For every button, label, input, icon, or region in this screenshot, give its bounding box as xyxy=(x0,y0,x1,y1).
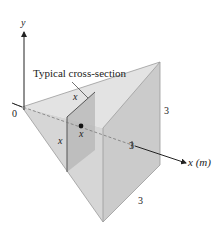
x-tick-3-label: 3 xyxy=(129,141,134,151)
x-axis-left-stub xyxy=(12,103,22,107)
right-face-height-label: 3 xyxy=(164,106,169,116)
origin-label: 0 xyxy=(12,109,17,119)
cross-section-top-edge-label: x xyxy=(73,92,77,102)
cross-section-label: Typical cross-section xyxy=(33,68,126,79)
cross-section-side-edge-label: x xyxy=(58,136,62,146)
diagram-graphics xyxy=(0,0,221,238)
cross-section-position-label: x xyxy=(79,129,83,139)
x-axis-label: x (m) xyxy=(188,157,211,168)
y-axis-label: y xyxy=(21,18,25,28)
bottom-edge-length-label: 3 xyxy=(138,196,143,206)
solid-diagram: y 0 Typical cross-section x x x 3 3 3 x … xyxy=(0,0,221,238)
